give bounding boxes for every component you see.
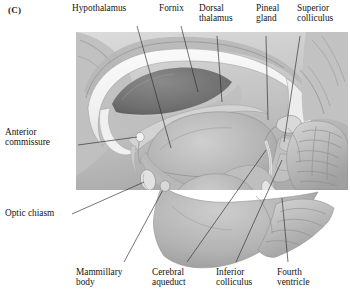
label-pineal-gland-line2: gland bbox=[256, 13, 279, 23]
label-optic-chiasm: Optic chiasm bbox=[5, 208, 54, 218]
inferior-brain-extension bbox=[153, 186, 334, 268]
label-fourth-ventricle-line2: ventricle bbox=[277, 277, 310, 287]
label-cerebral-aqueduct-line2: aqueduct bbox=[152, 277, 186, 287]
mammillary-body bbox=[160, 181, 170, 192]
label-hypothalamus: Hypothalamus bbox=[72, 3, 126, 13]
occipital-parietal-cortex bbox=[302, 32, 348, 126]
label-dorsal-thalamus-line1: Dorsal bbox=[199, 3, 233, 13]
label-superior-colliculus-line1: Superior bbox=[297, 3, 333, 13]
brain-midsagittal-illustration bbox=[0, 0, 350, 295]
label-inferior-colliculus-line1: Inferior bbox=[216, 267, 252, 277]
label-mammillary-body: Mammillary body bbox=[76, 267, 122, 288]
cerebellum bbox=[287, 121, 348, 190]
label-inferior-colliculus: Inferior colliculus bbox=[216, 267, 252, 288]
label-anterior-commissure-line2: commissure bbox=[5, 137, 50, 147]
label-anterior-commissure-line1: Anterior bbox=[5, 127, 50, 137]
label-dorsal-thalamus-line2: thalamus bbox=[199, 13, 233, 23]
label-pineal-gland: Pineal gland bbox=[256, 3, 279, 24]
label-fourth-ventricle: Fourth ventricle bbox=[277, 267, 310, 288]
anterior-commissure bbox=[136, 132, 144, 141]
label-inferior-colliculus-line2: colliculus bbox=[216, 277, 252, 287]
label-cerebral-aqueduct: Cerebral aqueduct bbox=[152, 267, 186, 288]
label-fornix: Fornix bbox=[159, 3, 184, 13]
label-fourth-ventricle-line1: Fourth bbox=[277, 267, 310, 277]
label-superior-colliculus: Superior colliculus bbox=[297, 3, 333, 24]
label-pineal-gland-line1: Pineal bbox=[256, 3, 279, 13]
label-mammillary-body-line2: body bbox=[76, 277, 122, 287]
label-cerebral-aqueduct-line1: Cerebral bbox=[152, 267, 186, 277]
label-superior-colliculus-line2: colliculus bbox=[297, 13, 333, 23]
label-mammillary-body-line1: Mammillary bbox=[76, 267, 122, 277]
figure-panel-c: (C) bbox=[0, 0, 350, 295]
label-dorsal-thalamus: Dorsal thalamus bbox=[199, 3, 233, 24]
label-anterior-commissure: Anterior commissure bbox=[5, 127, 50, 148]
